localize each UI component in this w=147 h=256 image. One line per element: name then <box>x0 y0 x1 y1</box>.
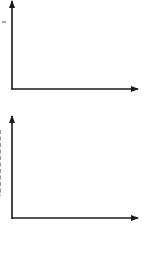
top-chart <box>2 1 138 90</box>
bottom-chart <box>0 116 138 219</box>
figure <box>0 0 147 256</box>
